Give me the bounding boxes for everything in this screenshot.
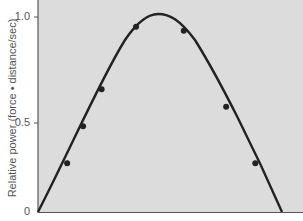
data-point bbox=[181, 28, 187, 34]
data-point bbox=[80, 123, 86, 129]
plot-svg bbox=[0, 0, 303, 221]
plot-area bbox=[38, 0, 303, 212]
data-point bbox=[133, 24, 139, 30]
data-point bbox=[223, 104, 229, 110]
data-point bbox=[252, 160, 258, 166]
power-curve-chart: 1.0 0.5 0 Relative power (force • distan… bbox=[0, 0, 303, 221]
data-point bbox=[64, 160, 70, 166]
data-point bbox=[99, 86, 105, 92]
y-axis-label: Relative power (force • distance/sec) bbox=[6, 8, 18, 208]
